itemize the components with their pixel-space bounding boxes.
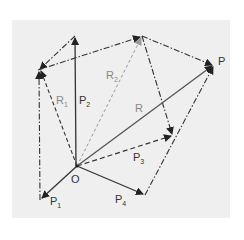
label-origin-text: O [71, 173, 80, 185]
vector-r [77, 66, 212, 166]
label-p3: P3 [133, 152, 144, 165]
label-p2: P2 [79, 95, 90, 108]
construction-v2-to-p3 [142, 36, 172, 134]
label-p1: P1 [50, 196, 61, 209]
construction-p1-to-v1 [39, 72, 40, 200]
origin-point [75, 164, 78, 167]
vector-p4 [77, 166, 143, 194]
label-p: P [218, 56, 225, 67]
label-r2-text: R [106, 69, 114, 81]
construction-v2-to-p [142, 36, 212, 65]
label-r: R [135, 103, 143, 114]
construction-p4-to-p [145, 67, 213, 195]
label-r2-sub: 2 [114, 76, 118, 83]
label-r2: R2 [106, 70, 118, 83]
construction-v1-to-v2 [38, 37, 140, 70]
label-p4: P4 [115, 194, 126, 207]
label-r1-sub: 1 [64, 101, 68, 108]
vector-r1 [41, 71, 77, 166]
vector-p3 [77, 136, 171, 166]
label-r1-text: R [56, 94, 64, 106]
label-r1: R1 [56, 95, 68, 108]
label-p3-sub: 3 [140, 158, 144, 165]
label-r-text: R [135, 102, 143, 114]
label-origin: O [71, 174, 80, 185]
label-p-text: P [218, 55, 225, 67]
label-p2-sub: 2 [86, 101, 90, 108]
label-p1-sub: 1 [57, 202, 61, 209]
label-p4-sub: 4 [122, 200, 126, 207]
